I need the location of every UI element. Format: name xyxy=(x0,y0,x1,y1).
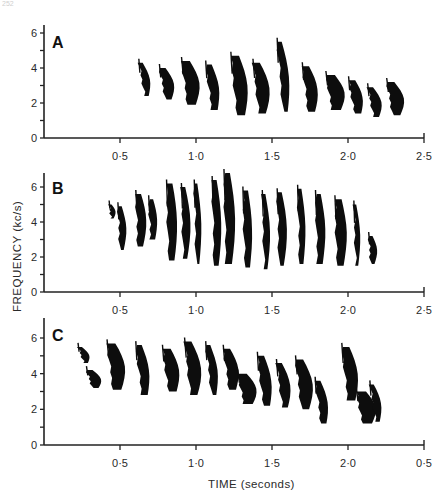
syllable xyxy=(181,61,200,105)
syllable xyxy=(205,345,218,395)
x-tick-label: 0·5 xyxy=(112,150,128,162)
syllable xyxy=(166,184,177,261)
y-axis-label: FREQUENCY (kc/s) xyxy=(11,201,23,312)
y-tick-label: 4 xyxy=(31,216,37,228)
y-tick-label: 6 xyxy=(31,181,37,193)
syllable xyxy=(163,349,180,392)
y-tick-label: 0 xyxy=(31,132,37,144)
syllable xyxy=(302,66,318,112)
syllable xyxy=(349,80,363,113)
x-tick-label: 0·5 xyxy=(112,457,128,469)
syllable xyxy=(386,82,404,115)
x-tick-label: 1·5 xyxy=(264,150,280,162)
panel-a: 02460·51·01·52·02·5A xyxy=(31,25,432,162)
syllable xyxy=(257,356,271,406)
x-tick-label: 1·0 xyxy=(188,304,204,316)
panel-letter: A xyxy=(52,34,64,51)
x-tick-label: 2·0 xyxy=(340,150,356,162)
y-tick-label: 4 xyxy=(31,62,37,74)
y-tick-label: 6 xyxy=(31,332,37,344)
x-tick-label: 2·5 xyxy=(416,304,432,316)
syllable xyxy=(342,347,358,401)
syllable xyxy=(206,65,219,111)
panel-b: 02460·51·01·52·02·5B xyxy=(31,169,432,316)
x-tick-label: 2·0 xyxy=(340,304,356,316)
syllable xyxy=(277,42,290,112)
x-axis-label: TIME (seconds) xyxy=(208,478,295,490)
panel-letter: B xyxy=(52,180,64,197)
x-tick-label: 1·0 xyxy=(188,457,204,469)
syllable xyxy=(136,345,150,395)
syllable xyxy=(238,374,257,404)
y-tick-label: 4 xyxy=(31,368,37,380)
syllable xyxy=(231,56,248,116)
syllable xyxy=(315,381,328,424)
x-tick-label: 2·0 xyxy=(340,457,356,469)
spectrogram-figure: 02460·51·01·52·02·5A02460·51·01·52·02·5B… xyxy=(0,0,446,499)
y-tick-label: 2 xyxy=(31,251,37,263)
x-tick-label: 1·5 xyxy=(264,457,280,469)
x-tick-label: 2·5 xyxy=(416,150,432,162)
syllable xyxy=(159,68,174,100)
y-tick-label: 0 xyxy=(31,286,37,298)
syllable xyxy=(295,359,313,409)
y-tick-label: 2 xyxy=(31,403,37,415)
y-tick-label: 2 xyxy=(31,97,37,109)
syllable xyxy=(326,75,345,110)
x-tick-label: 1·0 xyxy=(188,150,204,162)
panel-letter: C xyxy=(52,327,64,344)
x-tick-label: 0·5 xyxy=(416,457,432,469)
syllable xyxy=(335,199,347,265)
syllable xyxy=(243,191,252,268)
syllable xyxy=(223,349,239,390)
panel-c: 02460·51·01·52·00·5C xyxy=(31,318,432,469)
y-tick-label: 6 xyxy=(31,27,37,39)
syllable xyxy=(106,343,125,389)
x-tick-label: 1·5 xyxy=(264,304,280,316)
y-tick-label: 0 xyxy=(31,439,37,451)
x-tick-label: 0·5 xyxy=(112,304,128,316)
syllable xyxy=(86,370,101,388)
